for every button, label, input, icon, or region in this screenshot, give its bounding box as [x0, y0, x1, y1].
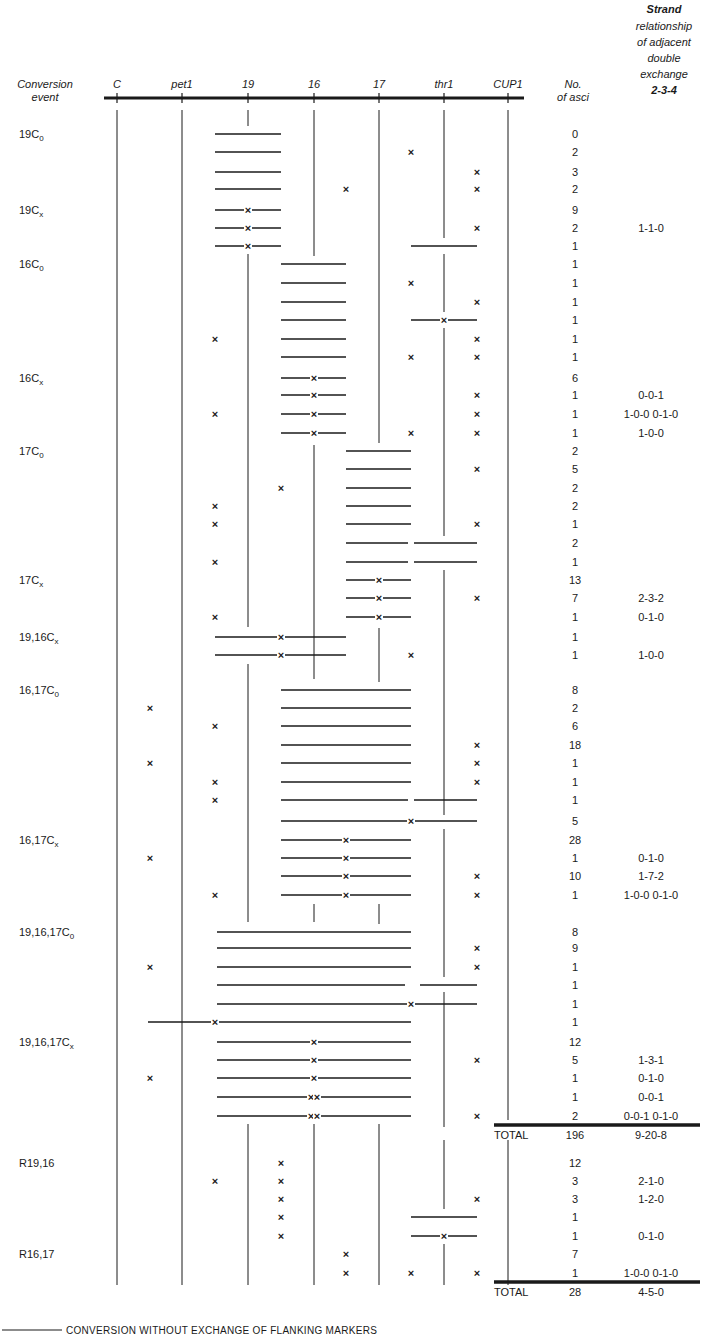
asci-count: 1	[572, 1091, 578, 1103]
asci-count: 9	[572, 204, 578, 216]
exchange-mark: ×	[212, 500, 218, 512]
crossover-mark: ×	[441, 314, 447, 326]
exchange-mark: ×	[212, 333, 218, 345]
table-row: ××51-3-1	[217, 1054, 664, 1066]
total-asci: 28	[569, 1286, 581, 1298]
asci-count: 9	[572, 942, 578, 954]
asci-count: 2	[572, 445, 578, 457]
strand-relationship: 2-1-0	[638, 1175, 664, 1187]
asci-count: 1	[572, 351, 578, 363]
table-row: ××10-1-0	[278, 1230, 664, 1242]
table-row: ×5	[346, 463, 578, 475]
exchange-mark: ×	[474, 296, 480, 308]
exchange-mark: ×	[474, 1110, 480, 1122]
asci-count: 1	[572, 314, 578, 326]
table-row: ××10-1-0	[212, 611, 664, 623]
crossover-mark: ×	[311, 1036, 317, 1048]
exchange-mark: ×	[474, 776, 480, 788]
exchange-mark: ×	[278, 1175, 284, 1187]
strand-relationship: 0-0-1 0-1-0	[624, 1110, 678, 1122]
asci-count: 1	[572, 631, 578, 643]
exchange-mark: ×	[474, 389, 480, 401]
group-label: 16C0	[19, 258, 44, 273]
asci-count: 5	[572, 815, 578, 827]
asci-count: 8	[572, 926, 578, 938]
table-row: ××1	[147, 757, 578, 769]
asci-count: 6	[572, 720, 578, 732]
asci-count: 1	[572, 427, 578, 439]
table-row: 2	[346, 445, 578, 457]
asci-count: 2	[572, 537, 578, 549]
group-labels: 19C019Cx16C016Cx17C017Cx19,16Cx16,17C016…	[19, 128, 75, 1260]
asci-count: 1	[572, 961, 578, 973]
table-row: ×2	[212, 500, 578, 512]
group-label: 19,16Cx	[19, 631, 58, 646]
asci-count: 1	[572, 389, 578, 401]
exchange-mark: ×	[343, 1248, 349, 1260]
table-row: ×××20-0-1 0-1-0	[217, 1110, 678, 1122]
table-row: ×1	[212, 794, 578, 806]
table-row: 8	[281, 684, 578, 696]
header-strand-1: Strand	[647, 3, 682, 15]
crossover-mark: ×	[376, 611, 382, 623]
table-row: ×1	[278, 1211, 578, 1223]
asci-count: 1	[572, 1230, 578, 1242]
crossover-mark: ×	[245, 240, 251, 252]
table-row: 8	[217, 926, 578, 938]
table-row: ×1	[281, 277, 578, 289]
table-row: ××21-1-0	[215, 222, 664, 234]
strand-relationship: 0-1-0	[638, 852, 664, 864]
asci-count: 1	[572, 277, 578, 289]
asci-count: 1	[572, 556, 578, 568]
exchange-mark: ×	[212, 1175, 218, 1187]
group-label: 16Cx	[19, 372, 43, 387]
crossover-mark: ×	[311, 427, 317, 439]
asci-count: 1	[572, 1211, 578, 1223]
asci-count: 2	[572, 702, 578, 714]
table-row: ×2	[278, 482, 578, 494]
asci-count: 1	[572, 296, 578, 308]
exchange-mark: ×	[474, 739, 480, 751]
header-strand-6: 2-3-4	[650, 84, 677, 96]
asci-count: 1	[572, 794, 578, 806]
header-no-1: No.	[564, 78, 581, 90]
table-row: ×6	[212, 720, 578, 732]
group-label: 19C0	[19, 128, 44, 143]
table-row: ×12	[217, 1036, 581, 1048]
crossover-mark: ×	[408, 815, 414, 827]
asci-count: 18	[569, 739, 581, 751]
table-row: ××72-3-2	[346, 592, 664, 604]
table-row: ××10-0-1	[281, 389, 664, 401]
asci-count: 1	[572, 240, 578, 252]
table-row: 1	[281, 258, 578, 270]
table-row: ×××11-0-0 0-1-0	[343, 1267, 678, 1279]
asci-count: 6	[572, 372, 578, 384]
strand-relationship: 2-3-2	[638, 592, 664, 604]
asci-count: 2	[572, 500, 578, 512]
marker-guide-lines	[117, 110, 508, 1285]
table-row: ×3	[215, 166, 578, 178]
exchange-mark: ×	[408, 427, 414, 439]
table-row: ××11-0-0	[215, 649, 664, 661]
table-row: ×××11-0-0 0-1-0	[212, 889, 678, 901]
table-row: ×6	[281, 372, 578, 384]
exchange-mark: ×	[343, 1267, 349, 1279]
marker-label-17: 17	[373, 78, 386, 90]
header-conversion-1: Conversion	[17, 78, 73, 90]
asci-count: 2	[572, 1110, 578, 1122]
strand-relationship: 1-7-2	[638, 870, 664, 882]
asci-count: 2	[572, 146, 578, 158]
crossover-mark: ×	[311, 1054, 317, 1066]
table-row: ×18	[281, 739, 581, 751]
asci-count: 7	[572, 592, 578, 604]
table-row: ×12	[278, 1157, 581, 1169]
strand-relationship: 1-0-0 0-1-0	[624, 889, 678, 901]
group-label: R19,16	[19, 1157, 54, 1169]
asci-count: 7	[572, 1248, 578, 1260]
asci-count: 1	[572, 1267, 578, 1279]
conversion-figure: Conversion event Cpet1191617thr1CUP1 No.…	[0, 0, 709, 1342]
exchange-mark: ×	[147, 1072, 153, 1084]
table-row: ×2	[147, 702, 578, 714]
group-label: 19,16,17C0	[19, 926, 75, 941]
marker-label-c: C	[113, 78, 121, 90]
